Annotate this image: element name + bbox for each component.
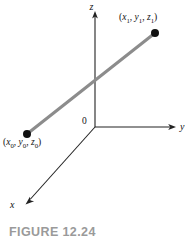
coordinate-diagram: z y x 0 [0, 0, 192, 244]
z-axis [92, 11, 98, 127]
origin-label: 0 [82, 116, 87, 126]
point-p1-label: (x1, y1, z1) [119, 13, 157, 25]
paren-close: ) [38, 137, 41, 147]
point-p1-dot [151, 29, 159, 37]
z-axis-label: z [89, 1, 94, 12]
paren-close: ) [154, 12, 157, 22]
y-axis-label: y [179, 121, 185, 132]
y-axis [95, 124, 176, 130]
figure-caption: FIGURE 12.24 [9, 225, 96, 239]
figure-container: z y x 0 (x1, y1, z1) (x0, y0, z0) FIGURE… [0, 0, 192, 244]
x-axis-label: x [9, 199, 15, 210]
point-p0-label: (x0, y0, z0) [3, 138, 41, 150]
x-axis-arrowhead [26, 197, 35, 205]
line-segment [27, 33, 155, 134]
